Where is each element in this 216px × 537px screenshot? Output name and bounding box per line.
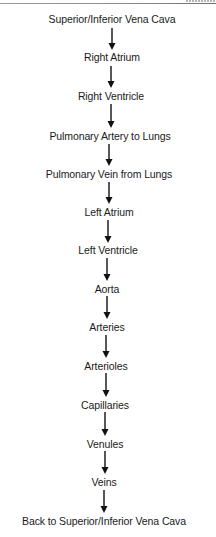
down-arrow-icon [101,335,111,358]
down-arrow-icon [106,104,116,128]
node-superior-inferior-vena-cava: Superior/Inferior Vena Cava [4,13,216,25]
down-arrow-icon [104,144,114,166]
down-arrow-icon [102,258,112,281]
down-arrow-icon [106,66,116,88]
down-arrow-icon [100,451,110,474]
node-right-atrium: Right Atrium [4,51,216,63]
down-arrow-icon [107,28,117,50]
node-capillaries: Capillaries [0,399,213,411]
node-right-ventricle: Right Ventricle [3,90,216,102]
node-pulmonary-artery: Pulmonary Artery to Lungs [2,130,216,142]
down-arrow-icon [101,373,111,397]
down-arrow-icon [100,412,110,436]
down-arrow-icon [99,490,109,513]
node-venules: Venules [0,438,213,450]
down-arrow-icon [102,296,112,319]
node-left-atrium: Left Atrium [1,206,216,218]
down-arrow-icon [103,220,113,243]
node-left-ventricle: Left Ventricle [0,244,216,256]
node-veins: Veins [0,476,212,488]
page-header-rule [0,3,216,4]
node-arteries: Arteries [0,321,215,333]
cropped-header-text [186,0,216,2]
down-arrow-icon [104,182,114,204]
node-back-to-vena-cava: Back to Superior/Inferior Vena Cava [0,515,212,527]
node-aorta: Aorta [0,283,215,295]
node-pulmonary-vein: Pulmonary Vein from Lungs [1,168,216,180]
node-arterioles: Arterioles [0,360,214,372]
